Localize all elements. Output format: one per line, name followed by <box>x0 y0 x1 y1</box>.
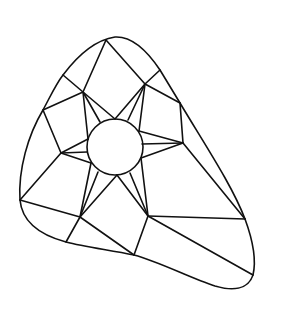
diagram-canvas <box>0 0 281 311</box>
star-spoke-right <box>141 143 183 158</box>
star-spokes <box>61 84 183 217</box>
star-spoke-bottom-left <box>80 163 91 217</box>
facet-edge <box>63 75 83 92</box>
star-spoke-left <box>61 152 87 153</box>
facet-edge <box>148 216 245 219</box>
center-circle <box>87 119 143 175</box>
star-spoke-right <box>142 143 183 144</box>
facet-edge <box>20 200 80 217</box>
facet-edge <box>145 70 160 84</box>
facet-edges <box>20 40 253 275</box>
facet-edge <box>83 40 106 92</box>
star-spoke-right <box>139 131 183 143</box>
facet-edge <box>66 217 80 242</box>
faceted-shape-diagram <box>0 0 281 311</box>
star-spoke-top-left <box>83 92 115 119</box>
star-spoke-bottom-left <box>80 175 117 217</box>
facet-edge <box>43 92 83 110</box>
facet-edge <box>183 143 245 219</box>
facet-edge <box>20 153 61 200</box>
facet-edge <box>43 110 61 153</box>
facet-edge <box>134 216 148 255</box>
facet-edge <box>180 103 183 143</box>
star-spoke-left <box>61 153 91 163</box>
star-spoke-left <box>61 139 88 153</box>
star-spoke-bottom-left <box>80 172 98 217</box>
